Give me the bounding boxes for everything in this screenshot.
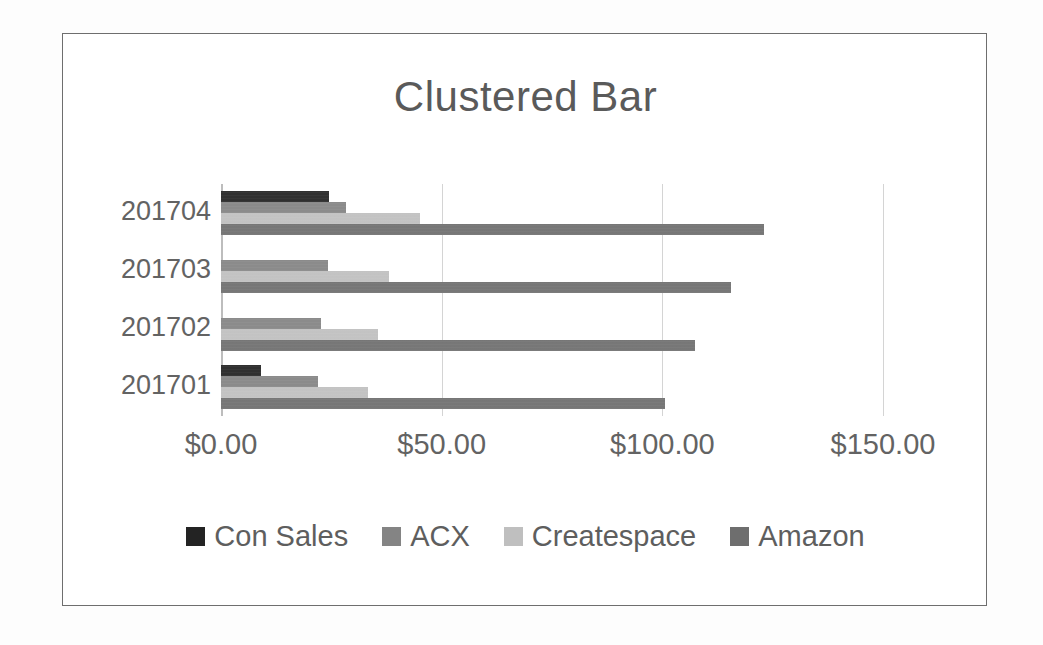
bar-acx-201703[interactable]: [221, 260, 328, 271]
gridline-150: [883, 184, 884, 416]
bar-createspace-201701[interactable]: [221, 387, 368, 398]
y-axis-label-201703: 201703: [61, 256, 211, 283]
bar-cluster-201701: [221, 358, 883, 416]
legend-entry-createspace[interactable]: Createspace: [504, 522, 696, 551]
legend-swatch-icon: [186, 527, 205, 546]
legend-entry-con-sales[interactable]: Con Sales: [186, 522, 348, 551]
legend-label: Amazon: [758, 522, 864, 551]
x-axis-tick-50: $50.00: [397, 430, 486, 459]
chart-legend: Con SalesACXCreatespaceAmazon: [63, 522, 988, 551]
legend-label: Createspace: [532, 522, 696, 551]
plot-area: [221, 184, 883, 416]
y-axis-category-labels: 201704201703201702201701: [63, 184, 211, 416]
bar-amazon-201704[interactable]: [221, 224, 764, 235]
bar-con-sales-201701[interactable]: [221, 365, 261, 376]
bar-acx-201704[interactable]: [221, 202, 346, 213]
legend-label: ACX: [410, 522, 470, 551]
bar-amazon-201703[interactable]: [221, 282, 731, 293]
x-axis-tick-0: $0.00: [185, 430, 258, 459]
bar-cluster-201704: [221, 184, 883, 242]
bar-amazon-201702[interactable]: [221, 340, 695, 351]
y-axis-label-201701: 201701: [61, 372, 211, 399]
legend-swatch-icon: [504, 527, 523, 546]
legend-entry-acx[interactable]: ACX: [382, 522, 470, 551]
x-axis-tick-labels: $0.00$50.00$100.00$150.00: [221, 430, 883, 472]
bar-createspace-201704[interactable]: [221, 213, 420, 224]
legend-swatch-icon: [382, 527, 401, 546]
bar-cluster-201702: [221, 300, 883, 358]
x-axis-tick-100: $100.00: [610, 430, 715, 459]
bar-amazon-201701[interactable]: [221, 398, 665, 409]
bar-con-sales-201704[interactable]: [221, 191, 329, 202]
chart-frame: Clustered Bar 201704201703201702201701 $…: [62, 33, 987, 606]
bar-cluster-201703: [221, 242, 883, 300]
y-axis-label-201704: 201704: [61, 198, 211, 225]
page-background: Clustered Bar 201704201703201702201701 $…: [0, 0, 1043, 645]
x-axis-tick-150: $150.00: [831, 430, 936, 459]
legend-label: Con Sales: [214, 522, 348, 551]
legend-swatch-icon: [730, 527, 749, 546]
bar-acx-201702[interactable]: [221, 318, 321, 329]
bar-acx-201701[interactable]: [221, 376, 318, 387]
legend-entry-amazon[interactable]: Amazon: [730, 522, 864, 551]
bar-createspace-201702[interactable]: [221, 329, 378, 340]
chart-title: Clustered Bar: [63, 76, 988, 118]
bar-createspace-201703[interactable]: [221, 271, 389, 282]
y-axis-label-201702: 201702: [61, 314, 211, 341]
